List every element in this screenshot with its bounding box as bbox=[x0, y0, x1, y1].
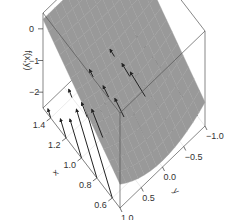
chart-container: 0.60.81.01.21.4−1.0−0.50.00.51.00−1−2 f(… bbox=[0, 0, 252, 220]
y-tick-label: 0.0 bbox=[164, 172, 177, 182]
y-tick bbox=[163, 167, 165, 171]
x-tick-label: 1.0 bbox=[64, 160, 77, 170]
y-tick-label: 1.0 bbox=[121, 213, 134, 220]
y-tick bbox=[205, 126, 207, 130]
z-tick-label: −2 bbox=[29, 87, 39, 97]
y-tick bbox=[141, 188, 143, 192]
x-tick-label: 1.2 bbox=[48, 140, 61, 150]
z-axis-label: f(x,y) bbox=[23, 51, 33, 71]
x-tick bbox=[47, 118, 51, 121]
x-tick bbox=[62, 138, 66, 141]
vector-arrow bbox=[69, 89, 72, 97]
z-tick-label: 0 bbox=[29, 24, 34, 34]
x-tick-label: 0.6 bbox=[94, 200, 107, 210]
x-tick-label: 1.4 bbox=[33, 120, 46, 130]
y-tick-label: 0.5 bbox=[142, 193, 155, 203]
y-tick-label: −0.5 bbox=[185, 152, 203, 162]
x-tick bbox=[108, 198, 112, 201]
y-tick bbox=[184, 147, 186, 151]
surface-plot: 0.60.81.01.21.4−1.0−0.50.00.51.00−1−2 f(… bbox=[0, 0, 252, 220]
x-tick bbox=[78, 158, 82, 161]
x-tick-label: 0.8 bbox=[79, 180, 92, 190]
y-axis-label: y bbox=[171, 186, 182, 196]
y-tick-label: −1.0 bbox=[206, 131, 224, 141]
y-tick bbox=[120, 208, 122, 212]
x-axis-label: x bbox=[50, 167, 60, 178]
x-tick bbox=[93, 178, 97, 181]
vector-arrow bbox=[60, 119, 66, 138]
surface-mesh bbox=[43, 0, 205, 184]
